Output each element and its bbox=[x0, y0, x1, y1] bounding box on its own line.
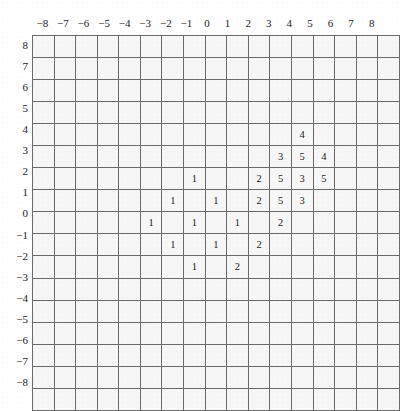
grid-cell-empty[interactable] bbox=[184, 102, 206, 124]
grid-cell-empty[interactable] bbox=[76, 36, 98, 58]
grid-cell-empty[interactable] bbox=[140, 388, 162, 410]
grid-cell-filled[interactable]: 3 bbox=[291, 168, 313, 190]
grid-cell-empty[interactable] bbox=[335, 36, 357, 58]
grid-cell-empty[interactable] bbox=[162, 168, 184, 190]
grid-cell-empty[interactable] bbox=[54, 58, 76, 80]
grid-cell-empty[interactable] bbox=[270, 80, 292, 102]
grid-cell-empty[interactable] bbox=[270, 366, 292, 388]
grid-cell-empty[interactable] bbox=[140, 58, 162, 80]
grid-cell-empty[interactable] bbox=[76, 124, 98, 146]
grid-cell-empty[interactable] bbox=[162, 124, 184, 146]
grid-cell-empty[interactable] bbox=[270, 388, 292, 410]
grid-cell-filled[interactable]: 1 bbox=[184, 256, 206, 278]
grid-cell-empty[interactable] bbox=[270, 344, 292, 366]
grid-cell-empty[interactable] bbox=[97, 322, 119, 344]
grid-cell-empty[interactable] bbox=[184, 36, 206, 58]
grid-cell-empty[interactable] bbox=[248, 80, 270, 102]
grid-cell-empty[interactable] bbox=[356, 190, 378, 212]
grid-cell-empty[interactable] bbox=[97, 102, 119, 124]
grid-cell-empty[interactable] bbox=[97, 190, 119, 212]
grid-cell-empty[interactable] bbox=[119, 102, 141, 124]
grid-cell-empty[interactable] bbox=[205, 256, 227, 278]
grid-cell-empty[interactable] bbox=[119, 322, 141, 344]
grid-cell-empty[interactable] bbox=[205, 212, 227, 234]
grid-cell-empty[interactable] bbox=[227, 190, 249, 212]
grid-cell-empty[interactable] bbox=[184, 278, 206, 300]
grid-cell-empty[interactable] bbox=[33, 388, 55, 410]
grid-cell-empty[interactable] bbox=[227, 234, 249, 256]
grid-cell-empty[interactable] bbox=[33, 168, 55, 190]
grid-cell-empty[interactable] bbox=[54, 322, 76, 344]
grid-cell-empty[interactable] bbox=[205, 278, 227, 300]
grid-cell-empty[interactable] bbox=[270, 322, 292, 344]
grid-cell-empty[interactable] bbox=[205, 388, 227, 410]
grid-cell-empty[interactable] bbox=[270, 256, 292, 278]
grid-cell-empty[interactable] bbox=[97, 300, 119, 322]
grid-cell-empty[interactable] bbox=[205, 168, 227, 190]
grid-cell-empty[interactable] bbox=[76, 322, 98, 344]
grid-cell-empty[interactable] bbox=[119, 278, 141, 300]
grid-cell-empty[interactable] bbox=[184, 366, 206, 388]
grid-cell-empty[interactable] bbox=[76, 168, 98, 190]
grid-cell-empty[interactable] bbox=[97, 212, 119, 234]
grid-cell-empty[interactable] bbox=[313, 388, 335, 410]
grid-cell-empty[interactable] bbox=[33, 234, 55, 256]
grid-cell-empty[interactable] bbox=[205, 322, 227, 344]
grid-cell-filled[interactable]: 1 bbox=[205, 190, 227, 212]
grid-cell-empty[interactable] bbox=[356, 58, 378, 80]
grid-cell-empty[interactable] bbox=[97, 344, 119, 366]
grid-cell-empty[interactable] bbox=[54, 190, 76, 212]
grid-cell-empty[interactable] bbox=[119, 344, 141, 366]
grid-cell-empty[interactable] bbox=[313, 278, 335, 300]
grid-cell-empty[interactable] bbox=[54, 168, 76, 190]
grid-cell-empty[interactable] bbox=[356, 146, 378, 168]
grid-cell-empty[interactable] bbox=[356, 256, 378, 278]
grid-cell-empty[interactable] bbox=[33, 102, 55, 124]
grid-cell-empty[interactable] bbox=[378, 146, 400, 168]
grid-cell-empty[interactable] bbox=[291, 344, 313, 366]
grid-cell-empty[interactable] bbox=[335, 388, 357, 410]
grid-cell-empty[interactable] bbox=[184, 234, 206, 256]
grid-cell-empty[interactable] bbox=[248, 58, 270, 80]
grid-cell-empty[interactable] bbox=[335, 146, 357, 168]
grid-cell-empty[interactable] bbox=[76, 212, 98, 234]
grid-cell-empty[interactable] bbox=[54, 124, 76, 146]
grid-cell-empty[interactable] bbox=[162, 300, 184, 322]
grid-cell-filled[interactable]: 2 bbox=[248, 234, 270, 256]
grid-cell-empty[interactable] bbox=[76, 344, 98, 366]
grid-cell-empty[interactable] bbox=[378, 190, 400, 212]
grid-cell-empty[interactable] bbox=[162, 388, 184, 410]
grid-cell-filled[interactable]: 2 bbox=[248, 190, 270, 212]
grid-cell-empty[interactable] bbox=[97, 58, 119, 80]
grid-cell-empty[interactable] bbox=[227, 344, 249, 366]
grid-cell-empty[interactable] bbox=[378, 256, 400, 278]
grid-cell-empty[interactable] bbox=[291, 234, 313, 256]
grid-cell-empty[interactable] bbox=[184, 322, 206, 344]
grid-cell-empty[interactable] bbox=[248, 278, 270, 300]
grid-cell-empty[interactable] bbox=[378, 212, 400, 234]
grid-cell-empty[interactable] bbox=[356, 124, 378, 146]
grid-cell-empty[interactable] bbox=[205, 124, 227, 146]
grid-cell-filled[interactable]: 1 bbox=[205, 234, 227, 256]
grid-cell-empty[interactable] bbox=[184, 124, 206, 146]
grid-cell-empty[interactable] bbox=[378, 234, 400, 256]
grid-cell-empty[interactable] bbox=[356, 234, 378, 256]
grid-cell-empty[interactable] bbox=[162, 146, 184, 168]
grid-cell-empty[interactable] bbox=[33, 300, 55, 322]
grid-cell-empty[interactable] bbox=[162, 344, 184, 366]
grid-cell-empty[interactable] bbox=[97, 146, 119, 168]
grid-cell-filled[interactable]: 1 bbox=[162, 234, 184, 256]
grid-cell-empty[interactable] bbox=[227, 146, 249, 168]
grid-cell-empty[interactable] bbox=[33, 212, 55, 234]
grid-cell-empty[interactable] bbox=[248, 124, 270, 146]
grid-cell-empty[interactable] bbox=[119, 388, 141, 410]
grid-cell-empty[interactable] bbox=[378, 36, 400, 58]
grid-cell-filled[interactable]: 5 bbox=[270, 168, 292, 190]
grid-cell-empty[interactable] bbox=[248, 366, 270, 388]
grid-cell-empty[interactable] bbox=[378, 58, 400, 80]
grid-cell-filled[interactable]: 2 bbox=[270, 212, 292, 234]
grid-cell-empty[interactable] bbox=[119, 190, 141, 212]
grid-cell-empty[interactable] bbox=[140, 322, 162, 344]
grid-cell-empty[interactable] bbox=[356, 388, 378, 410]
grid-cell-empty[interactable] bbox=[335, 168, 357, 190]
